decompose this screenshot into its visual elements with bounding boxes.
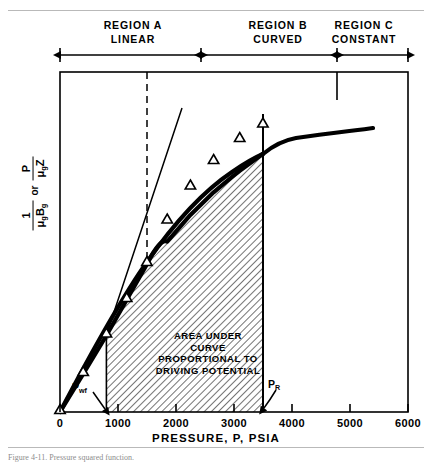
pr-leader-arrow xyxy=(264,390,276,408)
area-under-curve-note: AREA UNDER CURVE PROPORTIONAL TO DRIVING… xyxy=(118,330,298,376)
data-curve-plateau xyxy=(263,128,373,154)
data-point-marker xyxy=(162,214,172,223)
term2-numerator: P xyxy=(21,162,33,175)
x-tick-label: 6000 xyxy=(378,417,432,429)
pwf-leader-arrow xyxy=(93,392,105,409)
x-tick-label: 4000 xyxy=(262,417,322,429)
term1-denominator: μgBg xyxy=(33,201,48,231)
pr-label: PR xyxy=(268,378,280,392)
data-point-marker xyxy=(235,133,245,142)
data-point-marker xyxy=(258,118,268,127)
y-axis-label: 1 μgBg or P μgZ xyxy=(21,123,48,263)
y-axis-conjunction: or xyxy=(29,186,40,196)
x-axis-label: PRESSURE, P, PSIA xyxy=(0,432,432,444)
x-tick-label: 5000 xyxy=(320,417,380,429)
data-point-marker xyxy=(185,180,195,189)
plot-canvas xyxy=(0,0,432,466)
term1-numerator: 1 xyxy=(21,209,33,221)
figure-caption: Figure 4-11. Pressure squared function. xyxy=(8,453,428,462)
x-tick-label: 0 xyxy=(30,417,90,429)
y-axis-term-1: 1 μgBg xyxy=(21,201,48,231)
x-tick-label: 3000 xyxy=(204,417,264,429)
region-span-bar xyxy=(60,48,408,62)
x-tick-label: 1000 xyxy=(88,417,148,429)
y-axis-term-2: P μgZ xyxy=(21,157,48,181)
data-point-marker xyxy=(208,155,218,164)
figure-container: REGION A LINEAR REGION B CURVED REGION C… xyxy=(0,0,432,466)
term2-denominator: μgZ xyxy=(33,157,48,181)
pwf-label: Pwf xyxy=(72,381,87,395)
x-tick-label: 2000 xyxy=(146,417,206,429)
